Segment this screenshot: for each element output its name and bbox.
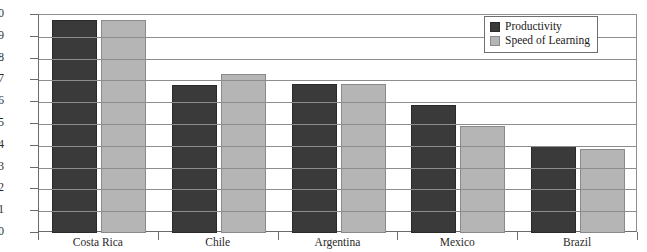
legend-label: Speed of Learning [505,35,590,47]
x-axis-category-label: Chile [158,236,278,249]
x-axis-tick-mark [517,232,518,240]
legend-item: Productivity [490,20,590,34]
gridline [39,124,636,125]
y-axis-tick-mark [30,145,38,146]
bar-chart: Costa RicaChileArgentinaMexicoBrazil Pro… [0,0,647,252]
y-axis-tick-label: 5 [0,117,4,129]
gridline [39,102,636,103]
x-axis-tick-mark [38,232,39,240]
y-axis-tick-label: 10 [0,8,4,20]
y-axis-tick-label: 7 [0,74,4,86]
legend-label: Productivity [505,21,562,33]
gridline [39,146,636,147]
gridline [39,80,636,81]
y-axis-tick-mark [30,167,38,168]
legend-swatch-icon [490,36,500,46]
gridline [39,189,636,190]
y-axis-tick-label: 6 [0,95,4,107]
bar-mexico-speed-of-learning [460,126,505,233]
y-axis-tick-label: 8 [0,52,4,64]
y-axis-tick-mark [30,101,38,102]
y-axis-tick-label: 0 [0,226,4,238]
x-axis-tick-mark [278,232,279,240]
y-axis-tick-mark [30,36,38,37]
y-axis-tick-mark [30,210,38,211]
y-axis-tick-mark [30,123,38,124]
chart-legend: ProductivitySpeed of Learning [484,16,598,53]
bar-brazil-speed-of-learning [580,149,625,233]
x-axis-category-label: Argentina [278,236,398,249]
gridline [39,168,636,169]
y-axis-tick-label: 9 [0,30,4,42]
y-axis-tick-mark [30,14,38,15]
legend-item: Speed of Learning [490,34,590,48]
y-axis-tick-label: 2 [0,183,4,195]
y-axis-tick-label: 1 [0,204,4,216]
y-axis-tick-mark [30,188,38,189]
legend-swatch-icon [490,22,500,32]
y-axis-tick-mark [30,232,38,233]
y-axis-tick-label: 3 [0,161,4,173]
y-axis-tick-mark [30,79,38,80]
x-axis-category-label: Costa Rica [38,236,158,249]
bar-costa-rica-speed-of-learning [101,20,146,233]
gridline [39,59,636,60]
bar-chile-speed-of-learning [221,74,266,233]
x-axis-tick-mark [158,232,159,240]
y-axis-tick-label: 4 [0,139,4,151]
x-axis-tick-mark [637,232,638,240]
x-axis-category-label: Mexico [397,236,517,249]
x-axis-tick-mark [397,232,398,240]
x-axis-category-label: Brazil [517,236,637,249]
bar-costa-rica-productivity [52,20,97,233]
gridline [39,211,636,212]
y-axis-tick-mark [30,58,38,59]
